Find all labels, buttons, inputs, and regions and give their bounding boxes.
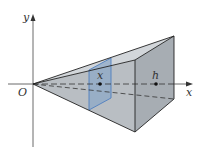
x-axis-label: x — [186, 86, 193, 99]
cross-section-label: x — [97, 69, 104, 82]
point-h — [154, 82, 158, 86]
y-axis-label: y — [22, 11, 30, 24]
point-x — [98, 82, 102, 86]
pyramid-diagram: y O x x h — [0, 0, 197, 154]
base-label: h — [152, 69, 159, 82]
y-axis-arrow-icon — [31, 14, 36, 21]
origin-label: O — [18, 86, 27, 99]
